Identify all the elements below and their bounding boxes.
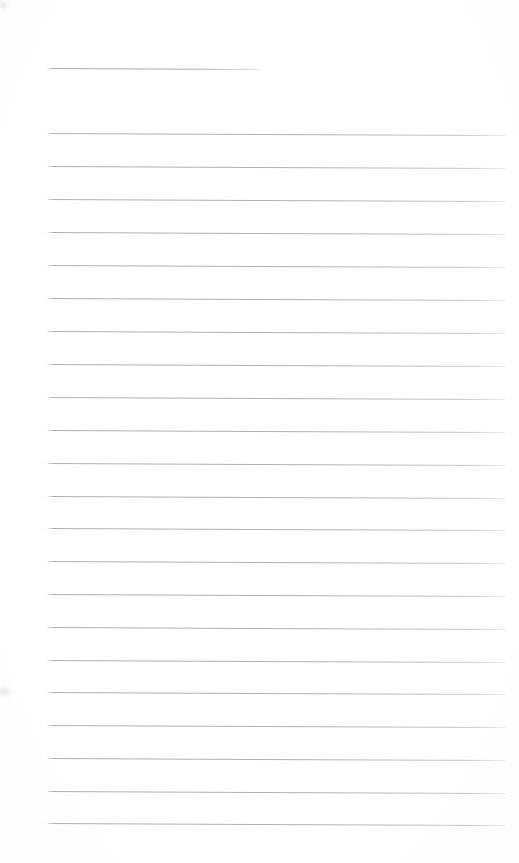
ruled-line (47, 758, 506, 761)
ruled-line (47, 298, 506, 301)
ruled-line (47, 528, 506, 531)
ruled-line (47, 791, 506, 794)
ruled-line (47, 232, 506, 235)
ruled-line (47, 725, 506, 728)
ruled-line (47, 166, 506, 169)
ruled-line (47, 199, 506, 202)
ruled-line (47, 331, 506, 334)
ruled-line (47, 265, 506, 268)
ruled-line (47, 364, 506, 367)
ruled-line (47, 133, 506, 136)
ruled-line (47, 430, 506, 433)
ruled-line (47, 660, 506, 663)
ruled-line (47, 463, 506, 466)
ruled-line (47, 627, 506, 630)
ruled-line (47, 561, 506, 564)
ruled-line (47, 823, 506, 826)
ruled-line (47, 397, 506, 400)
header-rule (47, 68, 263, 70)
top-left-smudge (0, 2, 7, 8)
notepad-page (0, 0, 519, 863)
ruled-line (47, 496, 506, 499)
left-margin-smudge (0, 688, 9, 695)
ruled-line (47, 692, 506, 695)
ruled-line (47, 594, 506, 597)
